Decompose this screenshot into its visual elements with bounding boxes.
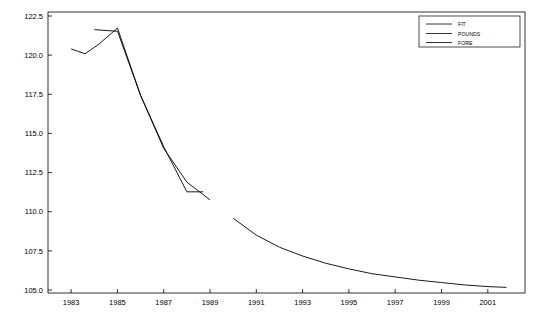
y-tick-label: 107.5: [24, 247, 43, 256]
x-tick-label: 1995: [341, 298, 358, 307]
legend-label-fore: FORE: [458, 40, 473, 46]
y-tick-label: 122.5: [24, 12, 43, 21]
x-tick-label: 1999: [433, 298, 450, 307]
y-tick-label: 110.0: [25, 207, 43, 216]
y-tick-label: 120.0: [24, 51, 43, 60]
legend-label-pounds: POUNDS: [458, 31, 481, 37]
x-tick-label: 1989: [202, 298, 219, 307]
x-tick-label: 2001: [479, 298, 496, 307]
x-tick-label: 1985: [109, 298, 126, 307]
legend: FIT POUNDS FORE: [419, 16, 520, 47]
data-series-group: [71, 28, 506, 287]
x-axis-ticks: [71, 289, 488, 293]
series-line-fit: [94, 30, 210, 200]
series-line-fore: [233, 218, 506, 287]
y-tick-label: 112.5: [25, 168, 43, 177]
x-tick-label: 1993: [294, 298, 311, 307]
y-axis-tick-labels: 122.5 120.0 117.5 115.0 112.5 110.0 107.…: [24, 12, 43, 295]
x-axis-tick-labels: 1983 1985 1987 1989 1991 1993 1995 1997 …: [63, 298, 496, 307]
x-tick-label: 1997: [387, 298, 404, 307]
legend-label-fit: FIT: [458, 21, 467, 27]
line-chart: 122.5 120.0 117.5 115.0 112.5 110.0 107.…: [0, 0, 535, 326]
x-tick-label: 1987: [155, 298, 172, 307]
x-tick-label: 1983: [63, 298, 80, 307]
y-tick-label: 105.0: [24, 286, 43, 295]
y-axis-ticks: [48, 16, 52, 290]
x-tick-label: 1991: [248, 298, 265, 307]
plot-frame: [48, 12, 525, 293]
y-tick-label: 115.0: [25, 129, 43, 138]
series-line-pounds: [71, 28, 203, 192]
y-tick-label: 117.5: [25, 90, 43, 99]
chart-container: 122.5 120.0 117.5 115.0 112.5 110.0 107.…: [0, 0, 535, 326]
